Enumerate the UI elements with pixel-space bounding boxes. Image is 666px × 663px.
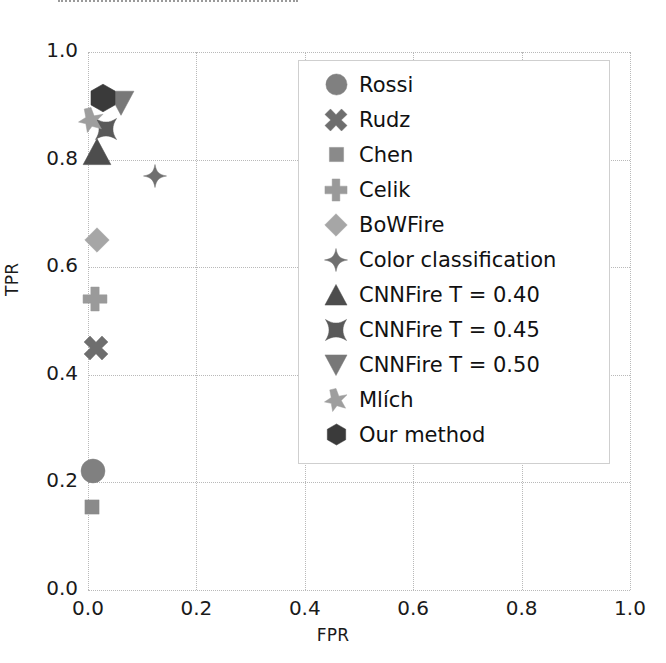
x-tick-label: 0.0 [48,596,128,620]
legend-item-label: CNNFire T = 0.40 [359,283,540,307]
legend-item[interactable]: Color classification [299,242,609,277]
y-tick-label: 0.2 [0,468,78,492]
legend-item-label: Chen [359,143,413,167]
hexagon-icon [313,423,359,446]
diamond-icon [313,213,359,237]
star4-fat-icon [313,318,359,342]
legend-item[interactable]: Our method [299,417,609,452]
gridline-horizontal [88,590,630,591]
data-point [83,498,100,515]
y-tick-label: 0.8 [0,146,78,170]
data-point [88,83,118,113]
plus-thick-icon [313,178,359,202]
legend-item-label: BoWFire [359,213,445,237]
star6-icon [313,388,359,412]
legend-items: RossiRudzChenCelikBoWFireColor classific… [299,67,609,452]
figure: TPR FPR 0.00.20.40.60.81.0 0.00.20.40.60… [0,0,666,663]
legend-item-label: Mlích [359,388,414,412]
gridline-horizontal [88,482,630,483]
legend-item[interactable]: CNNFire T = 0.45 [299,312,609,347]
legend-item[interactable]: Mlích [299,382,609,417]
y-tick-label: 0.4 [0,361,78,385]
legend-item-label: Our method [359,423,485,447]
y-tick-label: 1.0 [0,38,78,62]
legend-item[interactable]: CNNFire T = 0.40 [299,277,609,312]
legend-item-label: Celik [359,178,410,202]
data-point [83,335,109,361]
legend[interactable]: RossiRudzChenCelikBoWFireColor classific… [298,60,610,464]
gridline-vertical [630,52,631,590]
square-icon [313,146,359,163]
x-tick-label: 0.2 [156,596,236,620]
data-point [84,227,110,253]
circle-icon [313,73,359,96]
x-tick-label: 0.8 [482,596,562,620]
x-thick-icon [313,108,359,132]
legend-item[interactable]: Rossi [299,67,609,102]
gridline-horizontal [88,52,630,53]
legend-item[interactable]: Chen [299,137,609,172]
x-tick-label: 1.0 [590,596,666,620]
data-point [82,137,112,167]
legend-item[interactable]: CNNFire T = 0.50 [299,347,609,382]
legend-item[interactable]: Rudz [299,102,609,137]
legend-item[interactable]: BoWFire [299,207,609,242]
legend-item-label: CNNFire T = 0.50 [359,353,540,377]
legend-item-label: Rudz [359,108,410,132]
legend-item-label: CNNFire T = 0.45 [359,318,540,342]
star4-icon [313,248,359,272]
x-tick-label: 0.4 [265,596,345,620]
top-decoration-line [58,0,298,2]
x-axis-label: FPR [0,625,666,645]
legend-item-label: Rossi [359,73,413,97]
x-tick-label: 0.6 [373,596,453,620]
triangle-up-icon [313,283,359,307]
triangle-down-icon [313,353,359,377]
data-point [143,164,167,188]
gridline-vertical [196,52,197,590]
y-tick-label: 0.6 [0,253,78,277]
legend-item[interactable]: Celik [299,172,609,207]
data-point [80,458,106,484]
legend-item-label: Color classification [359,248,556,272]
data-point [82,286,108,312]
